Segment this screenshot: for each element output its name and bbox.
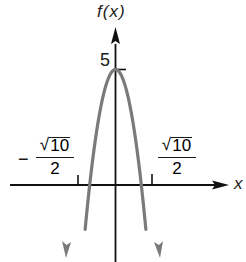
right-root-radicand: 10 bbox=[171, 137, 192, 154]
x-axis-label: x bbox=[234, 174, 243, 194]
right-root-label: √10 2 bbox=[158, 136, 196, 177]
right-root-numerator: √10 bbox=[162, 136, 192, 154]
curve-left-arrow-icon bbox=[62, 241, 71, 258]
y-axis-arrow-icon bbox=[111, 27, 120, 44]
tick-label-5: 5 bbox=[100, 50, 110, 71]
curve-right-arrow-icon bbox=[154, 241, 163, 258]
parabola-graph bbox=[0, 0, 246, 262]
sqrt-icon: √ bbox=[40, 136, 49, 154]
sqrt-icon: √ bbox=[162, 136, 171, 154]
left-root-sign: − bbox=[18, 149, 29, 170]
left-root-numerator: √10 bbox=[40, 136, 70, 154]
left-root-radicand: 10 bbox=[49, 137, 70, 154]
right-root-fraction-bar bbox=[158, 157, 196, 158]
left-root-fraction-bar bbox=[36, 157, 74, 158]
left-root-label: √10 2 bbox=[36, 136, 74, 177]
right-root-denominator: 2 bbox=[172, 160, 181, 177]
y-axis-label: f(x) bbox=[97, 2, 126, 22]
left-root-denominator: 2 bbox=[50, 160, 59, 177]
